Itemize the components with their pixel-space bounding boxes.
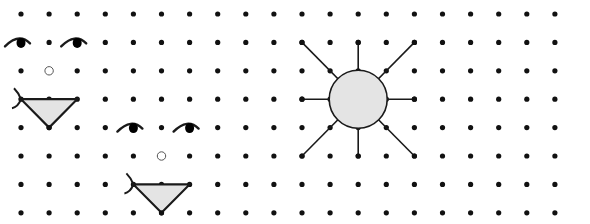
grid-dot [552, 68, 557, 73]
pupil [129, 123, 138, 133]
grid-dot [496, 97, 501, 102]
grid-dot [412, 68, 417, 73]
face-large [5, 38, 86, 130]
grid-dot [131, 40, 136, 45]
grid-dot [187, 153, 192, 158]
grid-dot [18, 153, 23, 158]
grid-dot [496, 182, 501, 187]
grid-dot [215, 125, 220, 130]
ray-endpoint-dot [412, 97, 417, 102]
ray-endpoint-dot [299, 153, 304, 158]
grid-dot [468, 11, 473, 16]
grid-dot [328, 11, 333, 16]
grid-dot [271, 153, 276, 158]
eye-icon [5, 38, 30, 48]
grid-dot [496, 68, 501, 73]
grid-dot [215, 40, 220, 45]
grid-dot [243, 40, 248, 45]
dot-grid-diagram [0, 0, 590, 224]
grid-dot [356, 210, 361, 215]
grid-dot [384, 153, 389, 158]
grid-dot [103, 125, 108, 130]
grid-dot [271, 40, 276, 45]
grid-dot [131, 210, 136, 215]
ray-endpoint-dot [299, 40, 304, 45]
grid-dot [440, 125, 445, 130]
grid-dot [75, 68, 80, 73]
grid-dot [103, 153, 108, 158]
grid-dot [524, 210, 529, 215]
grid-dot [18, 182, 23, 187]
grid-dot [384, 210, 389, 215]
ray-endpoint-dot [412, 40, 417, 45]
grid-dot [215, 97, 220, 102]
eye-icon [117, 123, 142, 133]
grid-dot [18, 11, 23, 16]
grid-dot [159, 125, 164, 130]
grid-dot [75, 210, 80, 215]
grid-dot [328, 40, 333, 45]
grid-dot [468, 68, 473, 73]
grid-dot [524, 125, 529, 130]
grid-dot [468, 153, 473, 158]
grid-dot [299, 68, 304, 73]
grid-dot [468, 182, 473, 187]
ray-endpoint-dot [356, 40, 361, 45]
grid-dot [440, 153, 445, 158]
grid-dot [384, 11, 389, 16]
grid-dot [47, 153, 52, 158]
grid-dot [131, 68, 136, 73]
grid-dot [384, 182, 389, 187]
grid-dot [47, 11, 52, 16]
grid-dot [468, 40, 473, 45]
grid-dot [215, 153, 220, 158]
grid-dot [384, 40, 389, 45]
ray-endpoint-dot [356, 153, 361, 158]
grid-dot [552, 153, 557, 158]
grid-dot [187, 97, 192, 102]
grid-dot [215, 182, 220, 187]
grid-dot [18, 210, 23, 215]
grid-dot [440, 11, 445, 16]
grid-dot [552, 125, 557, 130]
grid-dot [131, 153, 136, 158]
grid-dot [159, 210, 164, 215]
grid-dot [75, 182, 80, 187]
grid-dot [103, 97, 108, 102]
ray-endpoint-dot [412, 153, 417, 158]
grid-dot [328, 210, 333, 215]
grid-dot [412, 182, 417, 187]
grid-dot [103, 11, 108, 16]
grid-dot [271, 11, 276, 16]
grid-dot [552, 97, 557, 102]
grid-dot [271, 210, 276, 215]
grid-dot [103, 182, 108, 187]
grid-dot [159, 97, 164, 102]
grid-dot [187, 210, 192, 215]
grid-dot [18, 68, 23, 73]
mouth-triangle [133, 184, 189, 212]
sun-disc [329, 70, 387, 128]
grid-dot [47, 125, 52, 130]
grid-dot [468, 125, 473, 130]
grid-dot [243, 153, 248, 158]
grid-dot [159, 68, 164, 73]
pupil [185, 123, 194, 133]
grid-dot [468, 97, 473, 102]
grid-dot [243, 97, 248, 102]
grid-dot [187, 40, 192, 45]
grid-dot [187, 68, 192, 73]
mouth-triangle [21, 99, 77, 127]
grid-dot [159, 11, 164, 16]
grid-dot [215, 210, 220, 215]
dot-grid [18, 11, 557, 215]
grid-dot [496, 210, 501, 215]
grid-dot [496, 11, 501, 16]
grid-dot [159, 40, 164, 45]
grid-dot [412, 210, 417, 215]
grid-dot [131, 11, 136, 16]
grid-dot [524, 182, 529, 187]
grid-dot [243, 11, 248, 16]
pupil [17, 38, 26, 48]
eye-icon [61, 38, 86, 48]
